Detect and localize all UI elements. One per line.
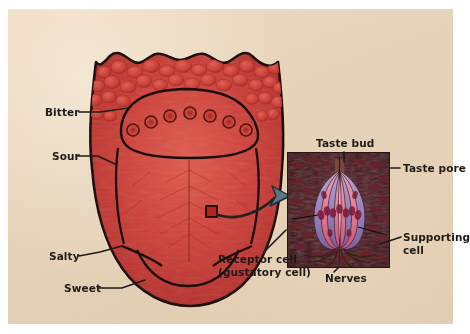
label-sweet: Sweet <box>64 282 101 295</box>
label-sour: Sour <box>52 150 80 163</box>
label-receptor-cell-line1: Receptor cell <box>218 253 311 266</box>
label-taste-pore: Taste pore <box>403 162 466 175</box>
label-nerves: Nerves <box>325 272 367 285</box>
label-receptor-cell-line2: (gustatory cell) <box>218 266 311 279</box>
label-salty: Salty <box>49 250 80 263</box>
receptor-cell-leader <box>264 230 286 252</box>
label-supporting-cell-line2: cell <box>403 244 470 257</box>
label-bitter: Bitter <box>45 106 80 119</box>
label-supporting-cell: Supporting cell <box>403 231 470 256</box>
label-taste-bud-title: Taste bud <box>316 137 374 150</box>
label-receptor-cell: Receptor cell (gustatory cell) <box>218 253 311 278</box>
supporting-cell-leader <box>380 237 401 244</box>
label-supporting-cell-line1: Supporting <box>403 231 470 244</box>
